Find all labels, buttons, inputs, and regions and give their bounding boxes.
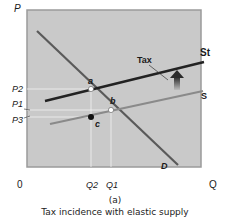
quantity-tick-q2: Q2 <box>86 180 98 190</box>
point-a <box>88 86 93 91</box>
label-b: b <box>110 96 116 106</box>
label-a: a <box>88 76 93 86</box>
price-tick-p1: P1 <box>12 99 23 109</box>
point-b <box>108 107 113 112</box>
quantity-tick-q1: Q1 <box>106 180 118 190</box>
y-axis-label: P <box>14 3 21 14</box>
tax-incidence-diagram: P Q 0 P2 P1 P3 Q2 Q1 a b c Tax St S D <box>0 0 230 224</box>
x-axis-label: Q <box>209 179 217 190</box>
tax-label: Tax <box>137 55 152 65</box>
point-c <box>88 114 94 120</box>
price-tick-p3: P3 <box>12 115 23 125</box>
panel-label: (a) <box>0 195 230 205</box>
supply-label: S <box>201 91 207 101</box>
label-c: c <box>95 119 100 129</box>
price-tick-p2: P2 <box>12 84 23 94</box>
origin-label: 0 <box>17 179 23 190</box>
figure-caption: Tax incidence with elastic supply <box>0 207 230 217</box>
supply-tax-label: St <box>200 47 211 58</box>
demand-label: D <box>161 161 168 171</box>
